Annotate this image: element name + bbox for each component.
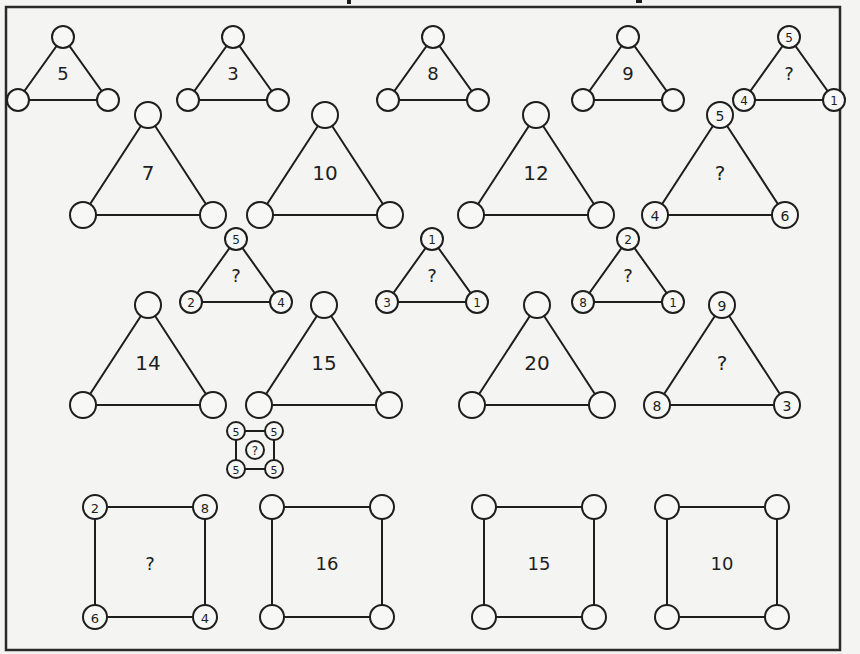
vertex-circle (458, 202, 484, 228)
vertex-circle (267, 89, 289, 111)
vertex-circle (200, 202, 226, 228)
mini-square-puzzle: ?5555 (227, 422, 283, 478)
heading-fragment (347, 0, 351, 4)
triangle-puzzle: ?541 (733, 26, 845, 111)
triangles-group: 5389?54171012?546?524?131?281141520?983 (7, 26, 845, 418)
vertex-value: 3 (783, 398, 792, 414)
vertex-circle (260, 495, 284, 519)
vertex-value: 1 (428, 233, 436, 247)
square-puzzle: 15 (472, 495, 606, 629)
vertex-value: 3 (383, 296, 391, 310)
vertex-circle (7, 89, 29, 111)
vertex-value: 6 (91, 611, 99, 626)
vertex-circle (472, 605, 496, 629)
vertex-circle (765, 605, 789, 629)
triangle-center-value: 5 (57, 63, 68, 84)
square-puzzle: 16 (260, 495, 394, 629)
square-center-value: 10 (711, 553, 734, 574)
triangle-puzzle: 15 (246, 292, 402, 418)
triangle-center-value: ? (715, 161, 726, 185)
triangle-puzzle: 9 (572, 26, 684, 111)
triangle-center-value: 8 (427, 63, 438, 84)
vertex-circle (200, 392, 226, 418)
vertex-circle (765, 495, 789, 519)
vertex-value: 9 (718, 298, 727, 314)
vertex-circle (376, 392, 402, 418)
vertex-value: 5 (716, 108, 725, 124)
vertex-circle (70, 392, 96, 418)
triangle-center-value: ? (427, 265, 437, 286)
square-center-value: ? (252, 444, 258, 458)
vertex-circle (222, 26, 244, 48)
triangle-center-value: 14 (135, 351, 160, 375)
triangle-center-value: ? (784, 63, 794, 84)
vertex-value: 1 (669, 296, 677, 310)
vertex-circle (260, 605, 284, 629)
triangle-center-value: 9 (622, 63, 633, 84)
triangle-center-value: ? (231, 265, 241, 286)
vertex-circle (97, 89, 119, 111)
square-center-value: ? (145, 553, 155, 574)
vertex-value: 1 (830, 94, 838, 108)
vertex-value: 8 (653, 398, 662, 414)
triangle-puzzle: 12 (458, 102, 614, 228)
vertex-value: 8 (579, 296, 587, 310)
vertex-circle (312, 102, 338, 128)
square-center-value: 16 (316, 553, 339, 574)
vertex-circle (246, 392, 272, 418)
vertex-circle (52, 26, 74, 48)
vertex-circle (655, 605, 679, 629)
vertex-circle (617, 26, 639, 48)
vertex-value: 5 (233, 464, 240, 477)
vertex-value: 4 (740, 94, 748, 108)
vertex-circle (135, 102, 161, 128)
vertex-circle (370, 495, 394, 519)
triangle-puzzle: ?281 (572, 228, 684, 313)
triangle-center-value: 20 (524, 351, 549, 375)
vertex-circle (377, 89, 399, 111)
vertex-circle (655, 495, 679, 519)
vertex-value: 2 (624, 233, 632, 247)
vertex-circle (70, 202, 96, 228)
vertex-circle (467, 89, 489, 111)
vertex-circle (572, 89, 594, 111)
triangle-puzzle: 8 (377, 26, 489, 111)
triangle-center-value: 7 (142, 161, 155, 185)
vertex-circle (459, 392, 485, 418)
vertex-circle (177, 89, 199, 111)
vertex-circle (662, 89, 684, 111)
triangle-puzzle: 10 (247, 102, 403, 228)
vertex-circle (588, 202, 614, 228)
triangle-puzzle: 14 (70, 292, 226, 418)
vertex-value: 4 (651, 208, 660, 224)
triangle-center-value: 15 (311, 351, 336, 375)
squares-group: ?5555?2864161510 (83, 422, 789, 629)
vertex-value: 5 (271, 464, 278, 477)
vertex-circle (523, 102, 549, 128)
square-puzzle: ?2864 (83, 495, 217, 629)
triangle-center-value: 12 (523, 161, 548, 185)
vertex-value: 5 (785, 31, 793, 45)
vertex-value: 5 (271, 426, 278, 439)
triangle-puzzle: 5 (7, 26, 119, 111)
vertex-value: 1 (473, 296, 481, 310)
triangle-puzzle: 3 (177, 26, 289, 111)
triangle-puzzle: 7 (70, 102, 226, 228)
vertex-value: 6 (781, 208, 790, 224)
vertex-circle (370, 605, 394, 629)
vertex-value: 2 (187, 296, 195, 310)
vertex-circle (377, 202, 403, 228)
triangle-puzzle: ?131 (376, 228, 488, 313)
vertex-circle (135, 292, 161, 318)
triangle-puzzle: ?546 (642, 102, 798, 228)
vertex-circle (422, 26, 444, 48)
vertex-circle (582, 605, 606, 629)
vertex-value: 8 (201, 501, 209, 516)
vertex-value: 5 (233, 426, 240, 439)
square-puzzle: 10 (655, 495, 789, 629)
vertex-value: 4 (201, 611, 209, 626)
vertex-circle (589, 392, 615, 418)
vertex-circle (472, 495, 496, 519)
triangle-center-value: 10 (312, 161, 337, 185)
square-center-value: 15 (528, 553, 551, 574)
